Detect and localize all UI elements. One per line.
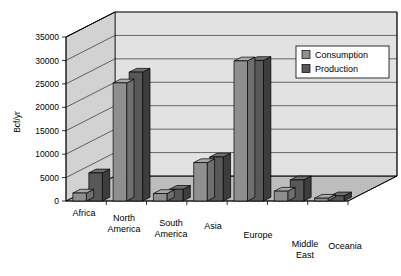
y-tick-label: 15000 bbox=[35, 126, 59, 136]
bar-chart-3d: 05000100001500020000250003000035000Bcf/y… bbox=[0, 0, 401, 276]
bar-consumption-5-front bbox=[274, 191, 288, 201]
y-tick-label: 30000 bbox=[35, 56, 59, 66]
y-tick-label: 25000 bbox=[35, 79, 59, 89]
x-axis-label-6: Oceania bbox=[328, 241, 362, 251]
y-tick-label: 20000 bbox=[35, 102, 59, 112]
bar-consumption-1 bbox=[113, 79, 134, 201]
x-axis-label-3: Asia bbox=[204, 221, 222, 231]
bar-consumption-2-front bbox=[153, 194, 167, 202]
x-axis-label-5: Middle bbox=[292, 239, 319, 249]
chart-canvas: 05000100001500020000250003000035000Bcf/y… bbox=[0, 0, 401, 276]
legend-label-production: Production bbox=[315, 64, 358, 74]
x-axis-label-2: South bbox=[159, 218, 183, 228]
bar-consumption-1-front bbox=[113, 83, 127, 201]
y-axis-title: Bcf/yr bbox=[12, 111, 22, 133]
y-tick-label: 5000 bbox=[40, 173, 59, 183]
bar-consumption-0-front bbox=[73, 193, 87, 201]
bar-production-5-side bbox=[304, 176, 311, 201]
bar-production-1-side bbox=[143, 68, 150, 201]
x-axis-label-0: Africa bbox=[72, 208, 95, 218]
x-axis-label-2: America bbox=[154, 229, 187, 239]
bar-production-4-side bbox=[263, 57, 270, 201]
legend-swatch-production bbox=[302, 65, 310, 73]
bar-consumption-3-side bbox=[207, 159, 214, 201]
x-axis-label-1: North bbox=[113, 213, 135, 223]
x-axis-labels: AfricaNorthAmericaSouthAmericaAsiaEurope… bbox=[72, 201, 361, 260]
x-axis-label-1: America bbox=[107, 224, 140, 234]
bar-production-0-side bbox=[102, 169, 109, 201]
y-axis-ticks: 05000100001500020000250003000035000 bbox=[35, 32, 66, 206]
legend-swatch-consumption bbox=[302, 51, 310, 59]
bar-consumption-3 bbox=[194, 159, 215, 201]
legend: ConsumptionProduction bbox=[296, 46, 389, 78]
y-tick-label: 0 bbox=[54, 196, 59, 206]
bar-consumption-3-front bbox=[194, 163, 208, 201]
x-axis-label-5: East bbox=[296, 250, 315, 260]
bar-consumption-6-front bbox=[315, 198, 329, 201]
legend-label-consumption: Consumption bbox=[315, 50, 368, 60]
y-tick-label: 35000 bbox=[35, 32, 59, 42]
bar-consumption-4-side bbox=[247, 57, 254, 201]
bar-consumption-1-side bbox=[127, 79, 134, 201]
y-tick-label: 10000 bbox=[35, 149, 59, 159]
bar-consumption-5 bbox=[274, 187, 295, 201]
bar-consumption-4-front bbox=[234, 61, 248, 201]
bar-production-3-side bbox=[223, 153, 230, 201]
x-axis-label-4: Europe bbox=[243, 230, 272, 240]
bar-consumption-4 bbox=[234, 57, 255, 201]
